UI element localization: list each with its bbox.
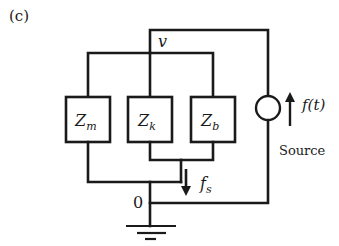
impedance-zm: Zm: [66, 97, 110, 142]
source-circle-icon: [256, 96, 280, 120]
flow-label: fs: [199, 174, 212, 196]
ground-icon: [126, 226, 176, 239]
impedance-zb: Zb: [191, 97, 235, 142]
flow-arrow-icon: [181, 169, 191, 196]
impedance-zk: Zk: [128, 97, 172, 142]
source-caption: Source: [279, 143, 326, 158]
source-top-wire: [150, 30, 268, 96]
circuit-diagram: (c) v Zm Zk Zb fs 0 f(t) Sour: [0, 0, 339, 246]
bottom-bus-wire: [88, 142, 181, 182]
source-signal-label: f(t): [301, 96, 325, 114]
source-arrow-icon: [285, 92, 295, 126]
node-0-label: 0: [133, 193, 143, 212]
zk-zb-bottom-wire: [150, 142, 213, 160]
node-v-label: v: [158, 32, 167, 51]
panel-label: (c): [9, 7, 29, 25]
